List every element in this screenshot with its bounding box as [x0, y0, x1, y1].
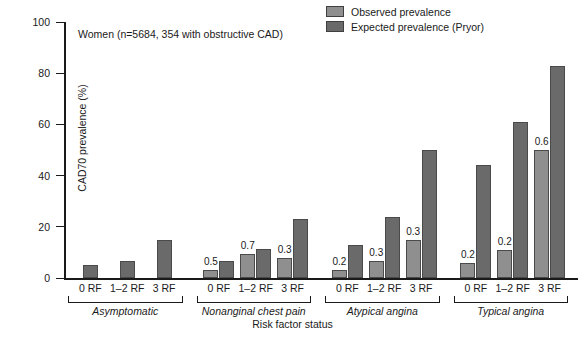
bar-expected	[157, 240, 172, 278]
y-tick-mark	[56, 22, 64, 23]
legend-label: Observed prevalence	[351, 6, 451, 18]
y-tick-mark	[56, 124, 64, 125]
group-bracket	[197, 296, 312, 303]
bar-expected	[219, 261, 234, 278]
bar-observed	[534, 150, 549, 278]
x-tick-label: 3 RF	[393, 282, 449, 294]
bar-observed	[460, 263, 475, 278]
y-tick-mark	[56, 278, 64, 279]
group-bracket	[68, 296, 183, 303]
group-bracket	[454, 296, 569, 303]
y-tick-mark	[56, 175, 64, 176]
bar-observed	[406, 240, 421, 278]
y-tick-mark	[56, 226, 64, 227]
legend-item[interactable]: Expected prevalence (Pryor)	[326, 21, 484, 32]
legend-swatch-icon	[326, 6, 344, 17]
x-tick-label: 3 RF	[265, 282, 321, 294]
legend-swatch-icon	[326, 21, 344, 32]
bar-expected	[476, 165, 491, 278]
sample-annotation: Women (n=5684, 354 with obstructive CAD)	[78, 28, 283, 40]
y-tick-label: 80	[20, 68, 50, 78]
bar-expected	[385, 217, 400, 278]
bar-expected	[422, 150, 437, 278]
legend-item[interactable]: Observed prevalence	[326, 6, 484, 17]
bar-observed	[332, 270, 347, 278]
group-bracket	[325, 296, 440, 303]
bar-observed	[497, 250, 512, 278]
bar-expected	[83, 265, 98, 278]
y-tick-label: 40	[20, 171, 50, 181]
bar-expected	[513, 122, 528, 278]
bar-expected	[120, 261, 135, 278]
x-axis-line	[64, 278, 578, 280]
y-tick-label: 100	[20, 17, 50, 27]
x-tick-label: 3 RF	[522, 282, 578, 294]
bar-observed	[369, 261, 384, 278]
x-tick-label: 3 RF	[136, 282, 192, 294]
cad70-prevalence-bar-chart: 020406080100 CAD70 prevalence (%) 0.50.7…	[0, 0, 585, 337]
bar-expected	[293, 219, 308, 278]
bar-observed	[277, 258, 292, 278]
y-tick-label: 20	[20, 222, 50, 232]
x-axis-title: Risk factor status	[0, 318, 585, 330]
bar-observed	[203, 270, 218, 278]
group-name-label: Typical angina	[434, 305, 585, 317]
group-brackets: AsymptomaticNonanginal chest painAtypica…	[0, 296, 585, 318]
legend: Observed prevalenceExpected prevalence (…	[326, 6, 484, 36]
bar-expected	[348, 245, 363, 278]
y-tick-mark	[56, 73, 64, 74]
plot-area: CAD70 prevalence (%) 0.50.70.30.20.30.30…	[64, 22, 578, 278]
bar-expected	[256, 249, 271, 278]
bar-observed	[240, 254, 255, 278]
bar-expected	[550, 66, 565, 278]
bars-layer: 0.50.70.30.20.30.30.20.20.6	[64, 22, 578, 278]
legend-label: Expected prevalence (Pryor)	[351, 21, 484, 33]
y-tick-label: 60	[20, 119, 50, 129]
